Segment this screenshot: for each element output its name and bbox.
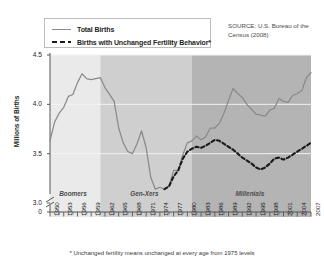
- x-tick-label: 2007: [314, 202, 321, 216]
- births-chart-figure: Total Births Births with Unchanged Ferti…: [0, 0, 324, 272]
- y-axis-title: Millions of Births: [13, 82, 20, 162]
- x-tick-label: 1971: [149, 202, 156, 216]
- y-tick-label: 4.5: [26, 51, 42, 58]
- legend-item-unchanged-fertility: Births with Unchanged Fertility Behavior…: [52, 36, 210, 48]
- legend-swatch-solid-line-icon: [52, 25, 71, 34]
- chart-footnote: * Unchanged fertility means unchanged at…: [0, 250, 324, 256]
- x-tick-label: 1995: [259, 202, 266, 216]
- x-tick-label: 1956: [80, 202, 87, 216]
- x-tick-label: 1968: [135, 202, 142, 216]
- band-label-boomers: Boomers: [59, 190, 87, 197]
- x-tick-label: 1950: [53, 202, 60, 216]
- x-tick-label: 1989: [231, 202, 238, 216]
- x-tick-label: 2004: [300, 202, 307, 216]
- x-tick-label: 1986: [217, 202, 224, 216]
- x-tick-label: 1977: [176, 202, 183, 216]
- legend-label-unchanged-fertility: Births with Unchanged Fertility Behavior…: [77, 39, 211, 46]
- x-tick-label: 1998: [272, 202, 279, 216]
- legend-swatch-dashed-line-icon: [52, 38, 71, 47]
- x-tick-label: 1959: [94, 202, 101, 216]
- x-tick-label: 1992: [245, 202, 252, 216]
- y-tick-label: 3.5: [26, 150, 42, 157]
- band-label-gen-xers: Gen-Xers: [130, 190, 158, 197]
- y-tick-label: 4.0: [26, 100, 42, 107]
- x-tick-label: 1965: [121, 202, 128, 216]
- y-tick-label: 0: [26, 208, 42, 215]
- legend-item-total-births: Total Births: [52, 23, 210, 35]
- y-tick-label: 3.0: [26, 199, 42, 206]
- x-tick-label: 2001: [286, 202, 293, 216]
- x-tick-label: 1980: [190, 202, 197, 216]
- band-label-millenials: Millenials: [235, 190, 264, 197]
- x-tick-label: 1953: [66, 202, 73, 216]
- chart-legend: Total Births Births with Unchanged Ferti…: [44, 18, 211, 48]
- source-note: SOURCE: U.S. Bureau of the Census (2008): [228, 22, 320, 40]
- x-tick-label: 1962: [108, 202, 115, 216]
- legend-label-total-births: Total Births: [77, 26, 114, 33]
- x-tick-label: 1974: [162, 202, 169, 216]
- x-tick-label: 1983: [204, 202, 211, 216]
